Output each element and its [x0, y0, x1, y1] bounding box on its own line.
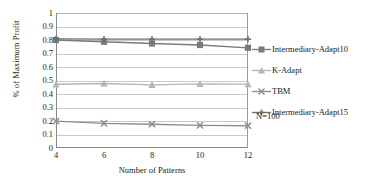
- line-chart-figure: 00.10.20.30.40.50.60.70.80.91 % of Maxim…: [0, 0, 374, 185]
- y-axis-tick-label: 0: [24, 144, 53, 153]
- legend-item: Intermediary-Adapt10: [252, 41, 374, 57]
- y-axis-tick-label: 0.6: [24, 63, 53, 72]
- y-axis-tick-label: 0.5: [24, 76, 53, 85]
- y-axis-tick-label: 0.3: [24, 103, 53, 112]
- x-axis-tick-labels: 4681012: [56, 150, 248, 162]
- x-axis-tick-label: 8: [150, 150, 154, 160]
- legend-label: K-Adapt: [271, 65, 302, 75]
- x-axis-tick-label: 10: [196, 150, 205, 160]
- y-axis-tick-label: 0.7: [24, 49, 53, 58]
- series-layer: [56, 13, 248, 148]
- legend-marker-x-icon: [252, 86, 271, 97]
- series-tbm: [53, 118, 251, 129]
- legend-item: K-Adapt: [252, 62, 374, 78]
- legend-marker-square-icon: [252, 44, 271, 55]
- x-axis-tick-label: 6: [102, 150, 106, 160]
- y-axis-tick-label: 0.9: [24, 22, 53, 31]
- sample-size-annotation: N=100: [256, 111, 280, 121]
- legend-label: TBM: [271, 86, 290, 96]
- data-point-marker: [245, 45, 251, 51]
- y-axis-tick-label: 0.1: [24, 130, 53, 139]
- series-k-adapt: [52, 80, 251, 88]
- legend-marker-triangle-icon: [252, 65, 271, 76]
- y-axis-tick-labels: 00.10.20.30.40.50.60.70.80.91: [24, 8, 53, 153]
- y-axis-tick-label: 0.8: [24, 36, 53, 45]
- y-axis-tick-label: 0.4: [24, 90, 53, 99]
- data-point-marker: [197, 42, 203, 48]
- y-axis-title: % of Maximum Profit: [11, 5, 21, 113]
- x-axis-tick-label: 12: [244, 150, 253, 160]
- legend-label: Intermediary-Adapt10: [271, 44, 348, 54]
- y-axis-tick-label: 1: [24, 9, 53, 18]
- data-point-marker: [259, 46, 265, 52]
- data-point-marker: [197, 36, 203, 42]
- data-point-marker: [245, 36, 251, 42]
- legend-item: TBM: [252, 83, 374, 99]
- y-axis-tick-label: 0.2: [24, 117, 53, 126]
- legend-label: Intermediary-Adapt15: [271, 107, 348, 117]
- x-axis-title: Number of Patterns: [56, 165, 248, 175]
- x-axis-tick-label: 4: [54, 150, 58, 160]
